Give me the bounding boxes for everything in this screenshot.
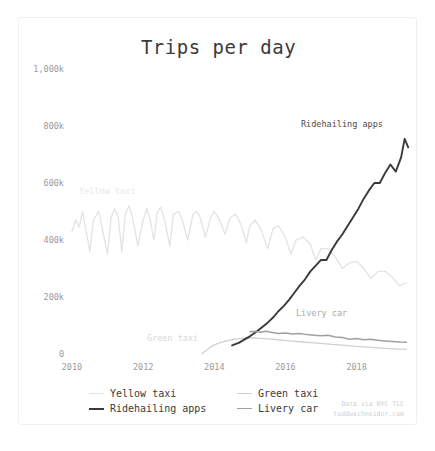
legend-row-1: Yellow taxi Green taxi xyxy=(89,386,349,401)
series-line-yellow-taxi xyxy=(72,206,406,286)
legend-item-livery-car[interactable]: Livery car xyxy=(237,403,318,414)
attribution-source: Data via NYC TLC xyxy=(334,399,404,409)
y-tick-label: 200k xyxy=(19,292,64,302)
y-tick-label: 600k xyxy=(19,178,64,188)
series-line-livery-car xyxy=(250,331,407,342)
x-tick-label: 2012 xyxy=(121,362,165,372)
legend-swatch-ridehailing-apps xyxy=(89,408,104,410)
attribution: Data via NYC TLC toddwschneider.com xyxy=(334,399,404,419)
y-tick-label: 800k xyxy=(19,121,64,131)
legend-item-yellow-taxi[interactable]: Yellow taxi xyxy=(89,388,237,399)
annotation-green-taxi: Green taxi xyxy=(147,333,198,343)
legend-item-green-taxi[interactable]: Green taxi xyxy=(237,388,318,399)
y-tick-label: 0 xyxy=(19,349,64,359)
annotation-ridehailing-apps: Ridehailing apps xyxy=(301,119,383,129)
y-tick-label: 400k xyxy=(19,235,64,245)
x-tick-label: 2016 xyxy=(263,362,307,372)
legend-swatch-green-taxi xyxy=(237,393,252,394)
annotation-yellow-taxi: Yellow taxi xyxy=(79,186,135,196)
legend-label-livery-car: Livery car xyxy=(258,403,318,414)
x-tick-label: 2014 xyxy=(192,362,236,372)
x-tick-label: 2010 xyxy=(50,362,94,372)
y-tick-label: 1,000k xyxy=(19,64,64,74)
legend-swatch-yellow-taxi xyxy=(89,393,104,394)
attribution-site: toddwschneider.com xyxy=(334,409,404,419)
chart-card: Trips per day 0200k400k600k800k1,000k 20… xyxy=(18,17,417,425)
annotation-livery-car: Livery car xyxy=(296,308,347,318)
x-tick-label: 2018 xyxy=(335,362,379,372)
legend-label-yellow-taxi: Yellow taxi xyxy=(110,388,176,399)
legend-swatch-livery-car xyxy=(237,408,252,409)
legend-label-green-taxi: Green taxi xyxy=(258,388,318,399)
legend-row-2: Ridehailing apps Livery car xyxy=(89,401,349,416)
legend-item-ridehailing-apps[interactable]: Ridehailing apps xyxy=(89,403,237,414)
legend-label-ridehailing-apps: Ridehailing apps xyxy=(110,403,206,414)
chart-legend: Yellow taxi Green taxi Ridehailing apps … xyxy=(89,386,349,416)
